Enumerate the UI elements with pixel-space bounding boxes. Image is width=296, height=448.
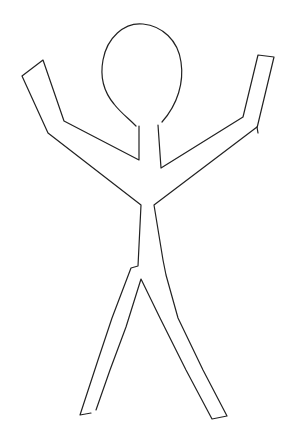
stick-figure-drawing bbox=[0, 0, 296, 448]
body-right-outline bbox=[158, 55, 274, 168]
left-leg-inner bbox=[96, 127, 257, 419]
head-outline bbox=[102, 24, 182, 126]
